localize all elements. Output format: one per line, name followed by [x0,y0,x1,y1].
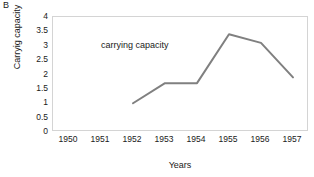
y-axis-tick: 4 [20,12,48,21]
y-axis-tick: 3.5 [20,26,48,35]
x-axis-tick: 1950 [51,135,85,144]
x-axis-tick: 1956 [243,135,277,144]
x-axis-tick: 1955 [211,135,245,144]
y-axis-tick: 2.5 [20,55,48,64]
plot-area: carrying capacity [52,16,308,131]
y-axis-tick: 0 [20,127,48,136]
x-axis-tick: 1951 [83,135,117,144]
annotation-carrying-capacity: carrying capacity [101,40,169,50]
y-axis-tick: 0.5 [20,112,48,121]
y-axis-tick: 3 [20,41,48,50]
x-axis-tick: 1957 [275,135,309,144]
x-axis-tick: 1954 [179,135,213,144]
y-axis-tick: 1 [20,98,48,107]
y-axis-tick: 1.5 [20,84,48,93]
x-axis-tick: 1953 [147,135,181,144]
figure-panel-b: B Carryig capacity 00.511.522.533.54 car… [0,0,314,177]
x-axis-tick-labels: 19501951195219531954195519561957 [52,135,308,149]
x-axis-label: Years [52,160,308,170]
y-axis-tick-labels: 00.511.522.533.54 [20,11,48,131]
y-axis-tick: 2 [20,69,48,78]
x-axis-tick: 1952 [115,135,149,144]
data-line-chart [53,17,309,132]
panel-label: B [3,1,9,10]
